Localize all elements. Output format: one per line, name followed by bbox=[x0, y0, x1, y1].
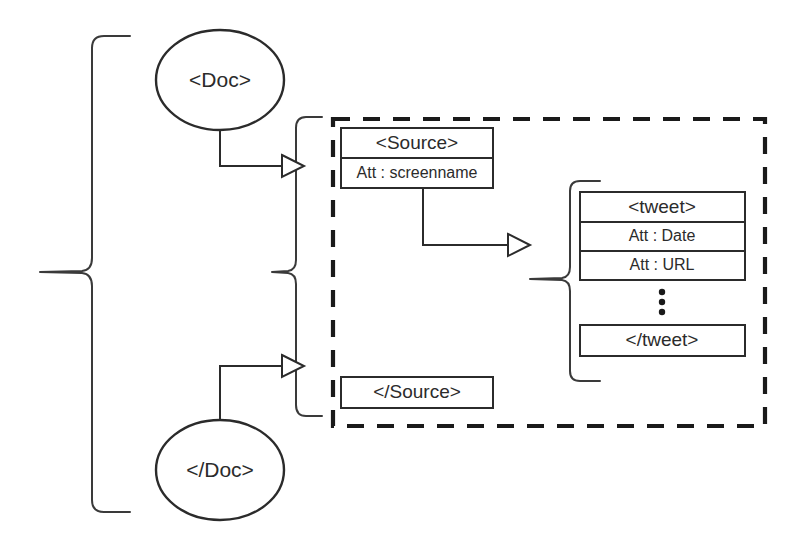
tweet-open-attr-date: Att : Date bbox=[629, 227, 696, 244]
diagram-svg: <Doc> </Doc> <Source> Att : screenname bbox=[0, 0, 805, 544]
doc-open-label: <Doc> bbox=[189, 68, 251, 91]
outer-document-brace bbox=[40, 36, 130, 512]
node-source-close[interactable]: </Source> bbox=[341, 377, 493, 408]
tweet-open-title: <tweet> bbox=[628, 196, 696, 217]
node-tweet-close[interactable]: </tweet> bbox=[580, 325, 745, 356]
source-open-title: <Source> bbox=[376, 132, 458, 153]
arrowhead-doc-close bbox=[282, 355, 304, 377]
arrowhead-source-to-tweet bbox=[508, 234, 530, 256]
node-doc-close[interactable]: </Doc> bbox=[156, 420, 284, 520]
tweet-ellipsis-dots bbox=[659, 289, 665, 315]
arrowhead-doc-open bbox=[282, 155, 304, 177]
connector-doc-close-to-source bbox=[220, 355, 304, 420]
node-doc-open[interactable]: <Doc> bbox=[156, 30, 284, 130]
doc-close-label: </Doc> bbox=[186, 458, 254, 481]
connector-doc-open-to-source bbox=[220, 130, 304, 177]
connector-source-to-tweet bbox=[423, 188, 530, 256]
diagram-canvas: <Doc> </Doc> <Source> Att : screenname bbox=[0, 0, 805, 544]
node-tweet-open[interactable]: <tweet> Att : Date Att : URL bbox=[580, 192, 745, 280]
source-open-attr-screenname: Att : screenname bbox=[357, 164, 478, 181]
tweet-close-label: </tweet> bbox=[626, 329, 699, 350]
tweet-open-attr-url: Att : URL bbox=[630, 256, 695, 273]
source-close-label: </Source> bbox=[373, 381, 461, 402]
node-source-open[interactable]: <Source> Att : screenname bbox=[341, 128, 493, 188]
